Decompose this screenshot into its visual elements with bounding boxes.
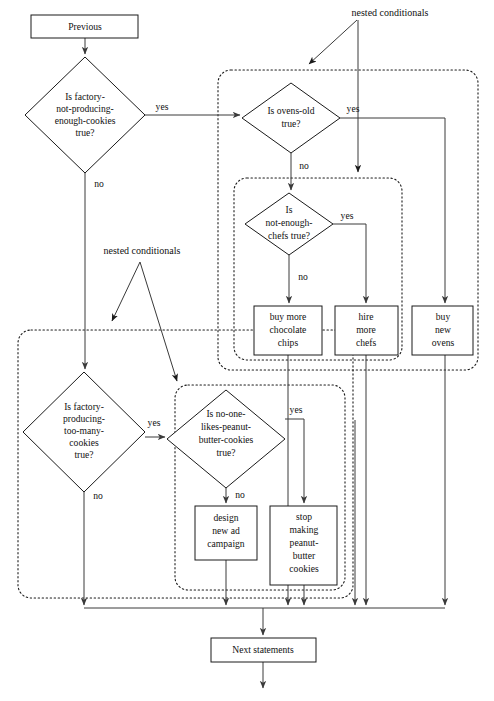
node-act3-label-3: ovens <box>432 337 455 348</box>
node-act2-label-2: more <box>356 324 376 335</box>
node-act5-label-4: butter <box>293 550 316 561</box>
node-cond3-label-2: not-enough- <box>266 217 313 228</box>
edge-label-pb-yes: yes <box>290 404 303 415</box>
edge-label-toomany-no: no <box>93 490 103 501</box>
node-cond5-label-4: true? <box>216 447 235 458</box>
node-act2-label-3: chefs <box>356 337 377 348</box>
node-cond2-label-2: true? <box>281 118 300 129</box>
edge-label-cond1-yes: yes <box>156 101 169 112</box>
node-cond1-label-4: true? <box>75 127 94 138</box>
annotation-nested-conditionals-top: nested conditionals <box>352 7 429 18</box>
node-act2-label-1: hire <box>359 311 374 322</box>
edge-label-pb-no: no <box>235 489 245 500</box>
annot-bottom-leader-right <box>140 262 177 381</box>
node-act1-label-3: chips <box>278 337 299 348</box>
node-cond2-label-1: Is ovens-old <box>267 105 314 116</box>
node-cond1-label-3: enough-cookies <box>55 115 116 126</box>
node-act4-label-1: design <box>213 512 238 523</box>
node-next-statements-label: Next statements <box>232 644 294 655</box>
node-act5-label-1: stop <box>296 511 312 522</box>
node-act5-label-5: cookies <box>289 563 319 574</box>
node-cond4-label-5: true? <box>74 449 93 460</box>
annot-bottom-leader-left <box>112 262 140 321</box>
node-cond1-label-2: not-producing- <box>56 103 114 114</box>
flowchart-canvas: Previous Is factory- not-producing- enou… <box>0 0 494 701</box>
edge-label-ovens-no: no <box>299 160 309 171</box>
node-act4-label-3: campaign <box>207 538 244 549</box>
edge-label-ovens-yes: yes <box>347 103 360 114</box>
edge-label-cond1-no: no <box>94 178 104 189</box>
node-act3-label-1: buy <box>436 311 451 322</box>
edge-label-chefs-yes: yes <box>341 210 354 221</box>
node-cond5-label-3: butter-cookies <box>199 434 254 445</box>
node-act4-label-2: new ad <box>212 525 240 536</box>
node-act5-label-2: making <box>290 524 319 535</box>
node-cond4-label-2: producing- <box>63 413 105 424</box>
node-act1-label-1: buy more <box>270 311 307 322</box>
edge-label-toomany-yes: yes <box>148 417 161 428</box>
annot-top-leader-left <box>309 20 357 64</box>
node-cond4-label-4: cookies <box>69 437 99 448</box>
node-cond4-label-3: too-many- <box>64 425 104 436</box>
node-cond5-label-1: Is no-one- <box>206 408 245 419</box>
edge-label-chefs-no: no <box>298 271 308 282</box>
edge-ovens-yes-to-buynewovens <box>340 118 445 303</box>
node-act1-label-2: chocolate <box>270 324 307 335</box>
node-cond3-label-1: Is <box>286 204 293 215</box>
flowchart-svg: Previous Is factory- not-producing- enou… <box>0 0 494 701</box>
annotation-nested-conditionals-bottom: nested conditionals <box>104 245 181 256</box>
node-cond4-label-1: Is factory- <box>64 401 104 412</box>
node-cond5-label-2: likes-peanut- <box>201 421 251 432</box>
edge-chefs-yes-to-hire <box>333 224 366 303</box>
node-act3-label-2: new <box>435 324 451 335</box>
node-cond1-label-1: Is factory- <box>65 91 105 102</box>
node-cond3-label-3: chefs true? <box>268 230 310 241</box>
node-act5-label-3: peanut- <box>290 537 319 548</box>
node-previous-label: Previous <box>68 21 102 32</box>
